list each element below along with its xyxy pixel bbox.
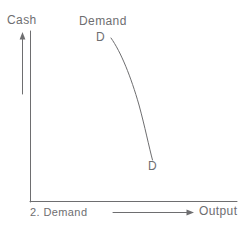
y-axis-label: Cash [7, 13, 37, 27]
cash-direction-arrow [20, 32, 26, 94]
demand-curve [111, 38, 153, 160]
curve-end-label: D [148, 159, 157, 173]
output-direction-arrow [113, 210, 194, 216]
figure-canvas: Cash Demand D D 2. Demand Output [0, 0, 245, 240]
x-axis-label: Output [199, 204, 237, 218]
figure-caption: 2. Demand [30, 206, 87, 218]
curve-title-label: Demand [79, 14, 127, 28]
curve-start-label: D [96, 30, 105, 44]
